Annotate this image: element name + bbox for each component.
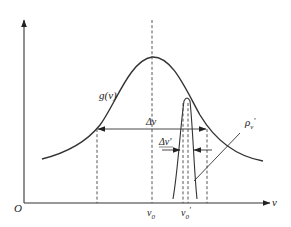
rho-leader-line: [194, 133, 240, 181]
dv-label: Δv: [145, 116, 157, 127]
tick-label-v0: v0: [147, 207, 155, 221]
broad-gain-curve: [42, 57, 263, 161]
x-axis-label: v: [272, 196, 277, 208]
rho-label: ρv': [244, 116, 256, 131]
v0-subscript: 0: [151, 213, 155, 221]
v0p-prime: ': [189, 206, 191, 215]
origin-label: O: [14, 202, 22, 214]
rho-prime: ': [253, 116, 256, 126]
spectral-linewidth-diagram: O v g(v) Δv Δv' ρv' v0 v0': [0, 0, 291, 227]
tick-label-v0-prime: v0': [181, 206, 191, 221]
dv-prime-label: Δv': [158, 136, 172, 147]
g-curve-label: g(v): [99, 89, 117, 102]
narrow-line-profile: [173, 98, 197, 199]
